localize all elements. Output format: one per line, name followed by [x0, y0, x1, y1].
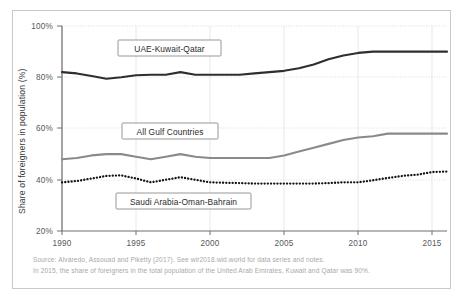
y-axis-label: Share of foreigners in population (%): [17, 68, 27, 214]
x-axis-ticks: 1990 1995 2000 2005 2010 2015: [52, 239, 441, 248]
y-tick-label: 60%: [36, 124, 53, 133]
x-tick-label: 2015: [422, 239, 441, 248]
series-label-text: Saudi Arabia-Oman-Bahrain: [130, 197, 237, 207]
series-label-text: UAE-Kuwait-Qatar: [134, 44, 205, 54]
x-tick-label: 1990: [52, 239, 71, 248]
series-label-saudi-arabia-oman-bahrain: Saudi Arabia-Oman-Bahrain: [116, 193, 251, 209]
y-tick-label: 100%: [31, 22, 53, 31]
series-line-saudi-arabia-oman-bahrain: [62, 172, 447, 184]
y-tick-label: 80%: [36, 73, 53, 82]
x-tick-label: 2000: [200, 239, 219, 248]
y-tick-label: 40%: [36, 176, 53, 185]
axes: [57, 26, 447, 235]
x-tick-label: 2005: [274, 239, 293, 248]
series-label-all-gulf-countries: All Gulf Countries: [122, 123, 218, 139]
finding-note: In 2015, the share of foreigners in the …: [33, 267, 370, 274]
series-line-all-gulf-countries: [62, 134, 447, 160]
x-tick-label: 1995: [126, 239, 145, 248]
series-label-text: All Gulf Countries: [137, 127, 204, 137]
x-tick-label: 2010: [348, 239, 367, 248]
source-note: Source: Alvaredo, Assouad and Piketty (2…: [33, 256, 325, 263]
y-axis-ticks: 100% 80% 60% 40% 20%: [31, 22, 53, 236]
y-tick-label: 20%: [36, 227, 53, 236]
series-label-uae-kuwait-qatar: UAE-Kuwait-Qatar: [118, 40, 221, 56]
